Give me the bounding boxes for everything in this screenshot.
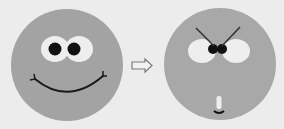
figure-canvas: Two cartoon faces: a happy smiling face …	[0, 0, 284, 129]
left-pupil	[49, 43, 62, 56]
angry-face	[164, 8, 276, 120]
happy-face	[11, 9, 123, 121]
faces-illustration	[0, 0, 284, 129]
arrow-right-icon	[132, 59, 152, 72]
open-mouth	[217, 96, 222, 109]
happy-face-head	[11, 9, 123, 121]
right-pupil	[68, 43, 81, 56]
